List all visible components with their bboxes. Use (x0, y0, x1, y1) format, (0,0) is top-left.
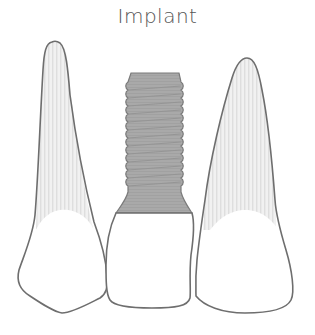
implant-diagram (0, 0, 315, 335)
dental-implant (116, 73, 192, 213)
right-tooth-root (203, 58, 276, 230)
left-natural-tooth (18, 41, 107, 314)
right-natural-tooth (196, 58, 293, 314)
implant-crown (106, 213, 193, 308)
left-tooth-crown (18, 210, 106, 314)
implant-crown-outline (106, 213, 193, 308)
